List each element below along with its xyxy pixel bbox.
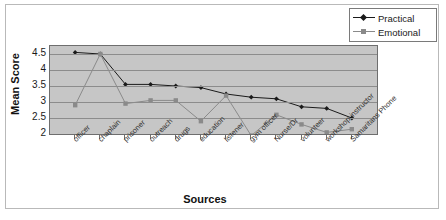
data-point-emotional (199, 119, 203, 123)
practical-marker-icon (353, 13, 375, 23)
y-tick-label: 3.5 (20, 80, 46, 90)
legend-item-emotional: Emotional (353, 25, 433, 39)
legend-label-practical: Practical (378, 13, 414, 24)
chart-legend: Practical Emotional (349, 8, 437, 42)
data-point-practical (249, 95, 254, 100)
data-point-emotional (224, 93, 228, 97)
x-axis-tick-labels: officerchaplainprisoneroutreachdrugseduc… (0, 136, 446, 198)
gridline (50, 102, 377, 103)
gridline (50, 86, 377, 87)
y-tick-label: 4 (20, 64, 46, 74)
gridline (50, 54, 377, 55)
data-point-practical (299, 104, 304, 109)
data-point-emotional (73, 103, 77, 107)
legend-label-emotional: Emotional (378, 27, 420, 38)
legend-item-practical: Practical (353, 11, 433, 25)
gridline (50, 70, 377, 71)
y-tick-label: 4.5 (20, 48, 46, 58)
y-tick-label: 3 (20, 96, 46, 106)
data-point-emotional (299, 122, 303, 126)
x-axis-title: Sources (0, 193, 410, 205)
data-point-practical (274, 96, 279, 101)
data-point-practical (324, 106, 329, 111)
gridline (50, 118, 377, 119)
y-tick-label: 2.5 (20, 112, 46, 122)
chart-figure: Mean Score 22.533.544.5 officerchaplainp… (0, 0, 446, 220)
emotional-marker-icon (353, 27, 375, 37)
